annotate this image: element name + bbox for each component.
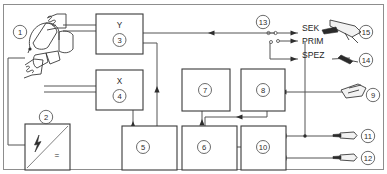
callout-12: 12 bbox=[364, 154, 372, 163]
welding-torch-icon bbox=[24, 14, 73, 78]
dc-symbol: = bbox=[55, 151, 60, 160]
block-8-number: 8 bbox=[261, 86, 265, 95]
block-y-3-number: 3 bbox=[117, 36, 121, 45]
diagram-canvas: Y 3 X 4 5 6 7 8 10 = bbox=[0, 0, 387, 174]
power-supply-unit[interactable]: = bbox=[25, 124, 70, 170]
block-6[interactable] bbox=[182, 126, 237, 170]
diagram-root: Y 3 X 4 5 6 7 8 10 = bbox=[0, 0, 387, 174]
callout-9: 9 bbox=[371, 91, 375, 100]
block-y-3-letter: Y bbox=[117, 21, 123, 30]
callout-13: 13 bbox=[259, 18, 267, 27]
block-x-4-number: 4 bbox=[117, 92, 121, 101]
block-x-4-letter: X bbox=[117, 77, 123, 86]
foot-pedal-icon-9 bbox=[341, 84, 366, 98]
welding-gun-icon-15 bbox=[322, 20, 361, 43]
callout-14: 14 bbox=[362, 56, 370, 65]
callout-15: 15 bbox=[362, 28, 370, 37]
block-10-number: 10 bbox=[259, 143, 267, 152]
port-label-spez: SPEZ bbox=[302, 50, 324, 60]
callout-2: 2 bbox=[44, 113, 48, 122]
electrode-holder-icon-11 bbox=[333, 132, 357, 139]
block-6-number: 6 bbox=[202, 143, 206, 152]
port-label-sek: SEK bbox=[302, 23, 319, 33]
callout-1: 1 bbox=[18, 28, 22, 37]
port-label-prim: PRIM bbox=[302, 36, 323, 46]
block-7-number: 7 bbox=[203, 86, 207, 95]
electrode-holder-icon-12 bbox=[333, 154, 357, 161]
callout-11: 11 bbox=[364, 132, 372, 141]
small-tool-icon-14 bbox=[338, 55, 358, 64]
block-5-number: 5 bbox=[141, 143, 145, 152]
